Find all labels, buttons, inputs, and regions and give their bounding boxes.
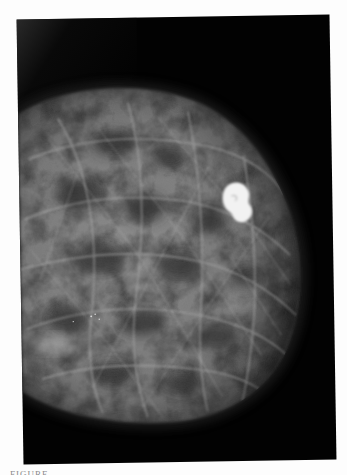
breast-tissue-graphic (17, 15, 337, 465)
mammogram-image (17, 15, 337, 465)
figure-caption: FIGURE (10, 467, 49, 475)
document-page: FIGURE (0, 0, 347, 475)
